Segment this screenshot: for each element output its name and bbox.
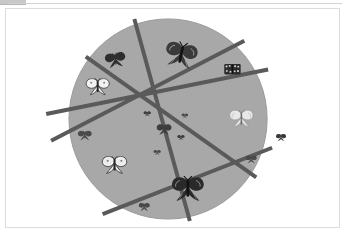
butterfly-outside-right — [276, 134, 286, 141]
screenshot-root — [0, 0, 346, 237]
top-chrome-divider — [8, 3, 342, 4]
butterfly-upper-right-patterned — [224, 64, 240, 74]
butterfly-circle-figure — [6, 9, 339, 227]
content-panel — [5, 8, 340, 228]
top-chrome-strip — [0, 0, 346, 5]
